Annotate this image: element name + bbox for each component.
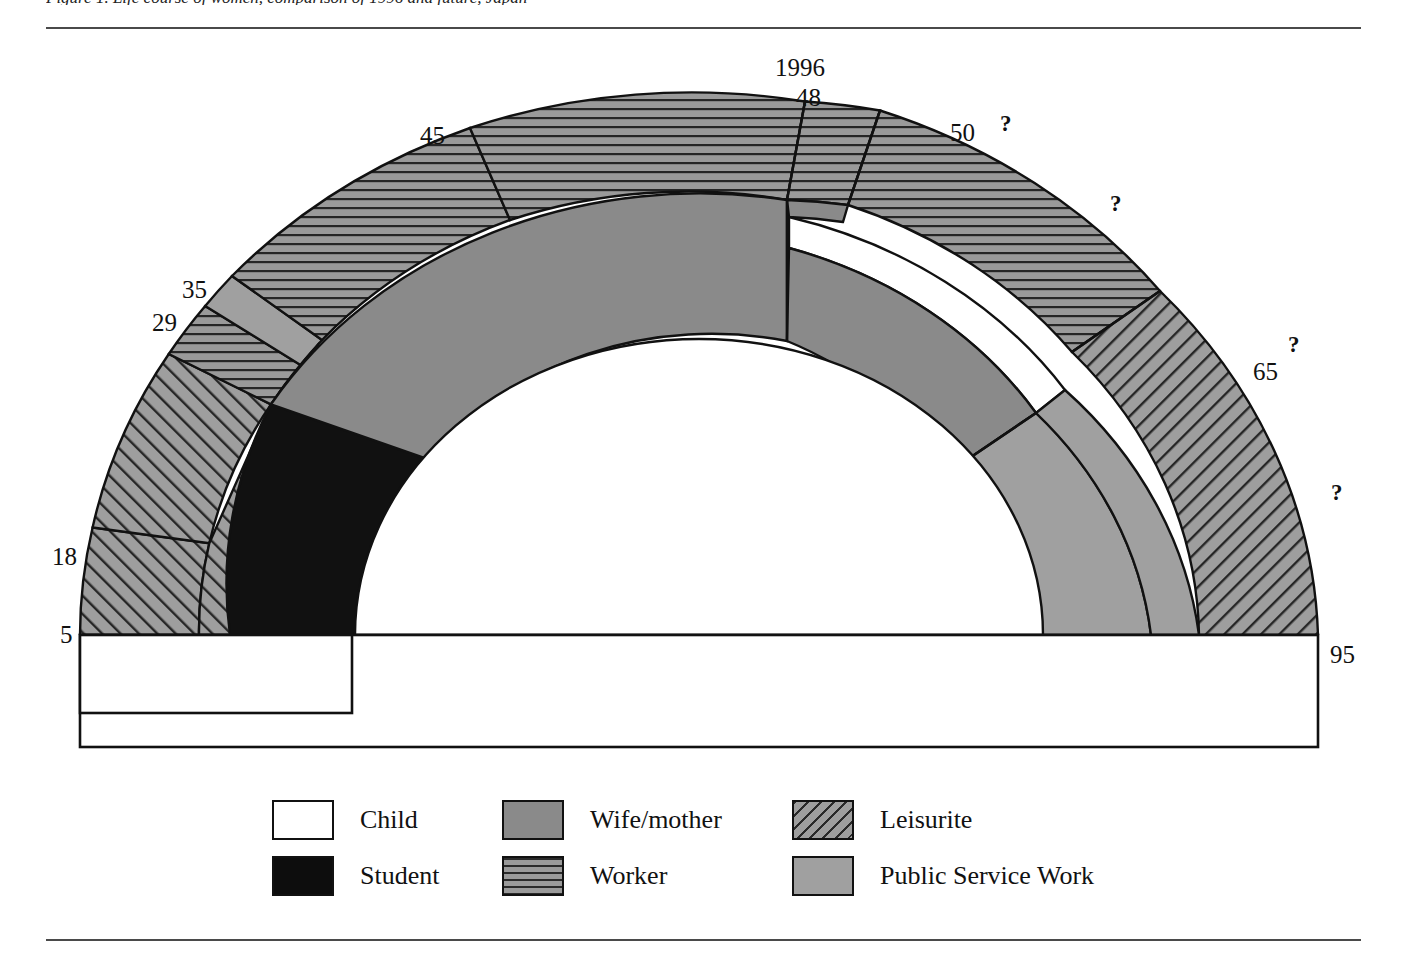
legend-label-wife-mother: Wife/mother xyxy=(590,805,722,835)
legend-row-2: Student Worker Public Service Work xyxy=(272,848,1172,904)
label-age-45: 45 xyxy=(420,123,445,148)
gray-square-swatch-icon xyxy=(502,800,564,840)
legend-item-wife-mother: Wife/mother xyxy=(502,800,792,840)
legend-item-child: Child xyxy=(272,800,502,840)
legend: Child Wife/mother Leisurite Student Work… xyxy=(272,792,1172,904)
legend-label-leisurite: Leisurite xyxy=(880,805,972,835)
label-age-18: 18 xyxy=(52,544,77,569)
white-square-swatch-icon xyxy=(272,800,334,840)
black-square-swatch-icon xyxy=(272,856,334,896)
label-age-50: 50 xyxy=(950,120,975,145)
label-unknown-3: ? xyxy=(1288,333,1300,356)
legend-item-leisurite: Leisurite xyxy=(792,800,1172,840)
horizontal-line-swatch-icon xyxy=(502,856,564,896)
light-gray-square-swatch-icon xyxy=(792,856,854,896)
child-band-inner-rect xyxy=(80,635,352,713)
legend-label-worker: Worker xyxy=(590,861,667,891)
legend-row-1: Child Wife/mother Leisurite xyxy=(272,792,1172,848)
label-unknown-4: ? xyxy=(1331,481,1343,504)
label-age-95: 95 xyxy=(1330,642,1355,667)
legend-label-student: Student xyxy=(360,861,439,891)
label-unknown-2: ? xyxy=(1110,192,1122,215)
legend-label-public-service-work: Public Service Work xyxy=(880,861,1094,891)
label-age-48: 48 xyxy=(796,85,821,110)
figure-page: Figure 1. Life course of women, comparis… xyxy=(0,0,1406,974)
label-age-5: 5 xyxy=(60,622,73,647)
legend-item-public-service-work: Public Service Work xyxy=(792,856,1172,896)
label-age-29: 29 xyxy=(152,310,177,335)
legend-label-child: Child xyxy=(360,805,418,835)
label-unknown-1: ? xyxy=(1000,112,1012,135)
legend-item-worker: Worker xyxy=(502,856,792,896)
label-age-65: 65 xyxy=(1253,359,1278,384)
arc-rings-group xyxy=(80,92,1318,635)
label-year-1996: 1996 xyxy=(775,55,825,80)
outer-seg-leisurite-18-29 xyxy=(80,528,209,636)
diagonal-hatch-swatch-icon xyxy=(792,800,854,840)
label-age-35: 35 xyxy=(182,277,207,302)
legend-item-student: Student xyxy=(272,856,502,896)
